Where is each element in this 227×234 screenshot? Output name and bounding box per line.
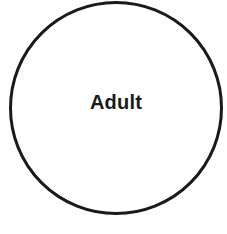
circle-label: Adult <box>0 91 227 114</box>
